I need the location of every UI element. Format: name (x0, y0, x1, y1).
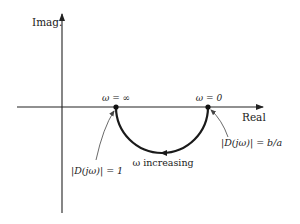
polar-plot-diagram: Imag. Real ω = ∞ ω = 0 ω increasing |D(j… (0, 0, 300, 224)
magnitude-infinity-label: |D(jω)| = 1 (71, 165, 123, 177)
point-w-zero (205, 104, 210, 109)
real-axis-label: Real (242, 111, 266, 123)
point-w-infinity (113, 104, 118, 109)
w-infinity-label: ω = ∞ (102, 93, 130, 103)
leader-magnitude-zero (211, 110, 228, 137)
imag-axis-label: Imag. (32, 16, 62, 28)
w-increasing-label: ω increasing (132, 157, 193, 168)
direction-arrow-icon (160, 150, 167, 156)
w-zero-label: ω = 0 (196, 93, 223, 103)
magnitude-zero-label: |D(jω)| = b/a (221, 137, 282, 149)
leader-magnitude-infinity (96, 111, 114, 160)
semicircle-locus (116, 107, 208, 153)
